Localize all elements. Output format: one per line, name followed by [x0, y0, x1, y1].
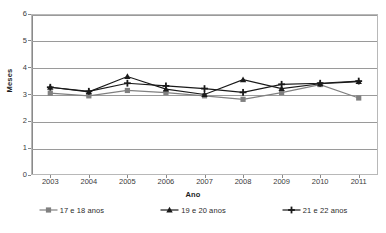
x-tick-mark — [243, 175, 244, 178]
data-point-cross — [278, 81, 285, 88]
x-axis-title: Ano — [0, 190, 386, 199]
y-axis-title: Meses — [5, 69, 14, 93]
x-tick-mark — [89, 175, 90, 178]
y-tick-label: 1 — [5, 144, 27, 152]
data-point-cross — [240, 89, 247, 96]
x-tick-label: 2005 — [107, 178, 147, 186]
data-point-square — [356, 95, 361, 100]
data-point-square — [125, 88, 130, 93]
y-tick-label: 2 — [5, 118, 27, 126]
data-point-cross — [124, 80, 131, 87]
x-tick-label: 2003 — [30, 178, 70, 186]
data-point-cross — [201, 85, 208, 92]
data-point-square — [240, 97, 245, 102]
legend: 17 e 18 anos19 e 20 anos21 e 22 anos — [0, 205, 386, 215]
legend-label: 21 e 22 anos — [303, 206, 348, 215]
x-tick-mark — [127, 175, 128, 178]
legend-marker-square-icon — [39, 205, 58, 215]
x-tick-label: 2006 — [146, 178, 186, 186]
x-tick-label: 2008 — [223, 178, 263, 186]
y-tick-label: 6 — [5, 10, 27, 18]
y-tick-label: 0 — [5, 171, 27, 179]
data-point-square — [48, 91, 53, 96]
legend-item-2[interactable]: 19 e 20 anos — [160, 205, 226, 215]
x-tick-label: 2010 — [300, 178, 340, 186]
x-tick-mark — [282, 175, 283, 178]
data-point-cross — [288, 207, 295, 214]
x-tick-mark — [205, 175, 206, 178]
data-point-square — [46, 207, 51, 212]
x-tick-label: 2009 — [262, 178, 302, 186]
data-point-triangle — [240, 77, 246, 83]
legend-label: 19 e 20 anos — [181, 206, 226, 215]
legend-item-1[interactable]: 17 e 18 anos — [39, 205, 105, 215]
legend-label: 17 e 18 anos — [60, 206, 105, 215]
x-tick-mark — [50, 175, 51, 178]
legend-marker-cross-icon — [282, 205, 301, 215]
x-tick-label: 2004 — [69, 178, 109, 186]
x-tick-label: 2011 — [339, 178, 379, 186]
x-tick-label: 2007 — [185, 178, 225, 186]
line-chart: 0123456 Meses 20032004200520062007200820… — [0, 0, 386, 233]
x-tick-mark — [166, 175, 167, 178]
legend-marker-triangle-icon — [160, 205, 179, 215]
x-tick-mark — [320, 175, 321, 178]
y-tick-label: 5 — [5, 37, 27, 45]
series-plot — [31, 14, 378, 175]
x-tick-mark — [359, 175, 360, 178]
data-point-triangle — [124, 73, 130, 79]
legend-item-3[interactable]: 21 e 22 anos — [282, 205, 348, 215]
